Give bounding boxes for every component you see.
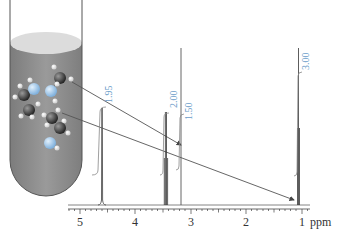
carbon-atom [23,104,35,116]
arrow-ch3 [62,113,294,200]
x-tick-label-2: 2 [243,215,249,229]
oxygen-atom [28,83,40,95]
carbon-atom [54,122,66,134]
integral-3-2 [176,114,184,170]
spectrum [68,48,310,205]
carbon-atom [46,112,58,124]
x-tick-label-1: 1 [299,215,305,229]
x-axis: 5 4 3 2 1 ppm [68,209,332,229]
oxygen-atom [44,137,56,149]
integral-label-ch2: 2.00 [168,91,179,109]
integral-labels: 1.95 2.00 1.50 3.00 [103,53,311,121]
integral-ch3 [294,72,302,176]
integral-label-oh: 1.95 [103,86,114,104]
integral-oh [92,107,106,175]
nmr-figure: 1.95 2.00 1.50 3.00 [0,0,337,233]
integral-label-ch3: 3.00 [300,53,311,71]
peak-oh [98,108,106,205]
meniscus [10,32,82,54]
carbon-atom [18,89,30,101]
x-axis-unit-label: ppm [310,215,332,229]
integral-label-3-2: 1.50 [183,103,194,121]
peak-ch2 [164,112,167,205]
oxygen-atom [45,85,57,97]
arrow-ch2 [72,82,181,145]
x-axis-ticks [69,209,308,214]
tube-liquid [10,42,82,196]
nmr-tube-illustration [10,0,82,196]
x-tick-label-4: 4 [132,215,138,229]
x-tick-label-5: 5 [77,215,83,229]
x-tick-label-3: 3 [188,215,194,229]
